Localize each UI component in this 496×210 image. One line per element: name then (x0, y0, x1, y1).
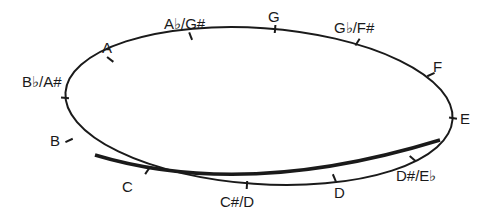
note-label: B♭/A# (22, 73, 62, 90)
note-label: F (433, 58, 442, 75)
tick-marks (61, 25, 457, 189)
tick-mark (449, 118, 457, 119)
cycle-ellipse-bottom-emphasis (95, 140, 440, 174)
tick-mark (61, 97, 69, 98)
tick-mark (189, 32, 192, 39)
note-label: A (102, 39, 112, 56)
tick-mark (65, 139, 72, 142)
pitch-cycle-diagram: GG♭/F#FED#/E♭DC#/DCBB♭/A#AA♭/G# (0, 0, 496, 210)
note-label: G (268, 8, 280, 25)
note-label: C#/D (220, 193, 254, 210)
diagram-canvas: GG♭/F#FED#/E♭DC#/DCBB♭/A#AA♭/G# (0, 0, 496, 210)
note-label: B (50, 132, 60, 149)
note-label: G♭/F# (334, 19, 375, 36)
note-label: A♭/G# (164, 15, 206, 32)
note-label: E (460, 110, 470, 127)
tick-mark (107, 57, 113, 62)
note-label: C (122, 178, 133, 195)
note-label: D#/E♭ (396, 167, 436, 184)
tick-mark (410, 156, 416, 161)
tick-mark (333, 174, 336, 181)
tick-mark (275, 25, 276, 33)
note-labels: GG♭/F#FED#/E♭DC#/DCBB♭/A#AA♭/G# (22, 8, 470, 210)
note-label: D (334, 184, 345, 201)
